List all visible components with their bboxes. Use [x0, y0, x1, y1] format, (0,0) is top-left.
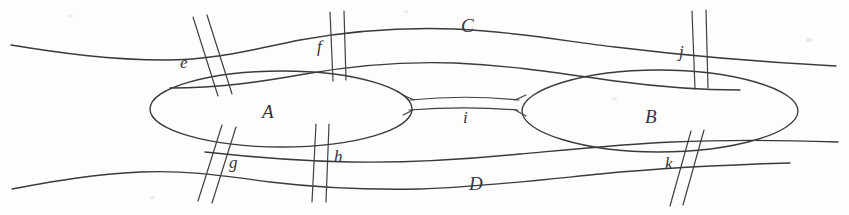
paper-speck [150, 196, 155, 199]
bridge-label-h: h [334, 148, 343, 165]
bridge-label-g: g [229, 154, 238, 171]
region-label-c: C [461, 16, 474, 35]
paper-speck [806, 38, 812, 42]
region-label-d: D [469, 174, 483, 193]
bridge-label-i: i [463, 109, 468, 126]
bridge-h-strokes [312, 124, 329, 202]
bridge-label-e: e [180, 54, 188, 71]
region-label-b: B [645, 107, 657, 126]
paper-speck [612, 97, 617, 100]
bridge-label-k: k [665, 155, 673, 172]
island-a-outline [150, 71, 412, 147]
paper-speck [68, 14, 73, 18]
bridge-label-j: j [679, 43, 684, 60]
paper-speck [404, 10, 408, 13]
diagram-canvas [0, 0, 849, 215]
bank-c-upper-shore [170, 63, 740, 90]
island-b-outline [522, 70, 798, 152]
bridge-label-f: f [317, 38, 322, 55]
bank-c-lower-shore [11, 28, 836, 66]
region-label-a: A [262, 102, 274, 121]
bridge-j-strokes [692, 10, 708, 89]
bank-d-upper-shore [12, 163, 790, 189]
bridge-f-strokes [330, 11, 346, 81]
bridges-diagram: A B C D e f g h i j k [0, 0, 849, 215]
